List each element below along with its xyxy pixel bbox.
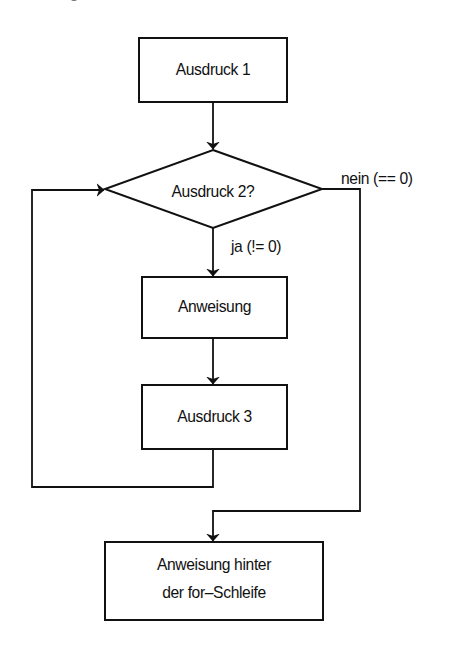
- node-after-box: [105, 542, 323, 620]
- for-loop-flowchart: [0, 0, 455, 651]
- node-after-label-line2: der for–Schleife: [114, 583, 315, 603]
- node-expr3-label: Ausdruck 3: [148, 407, 281, 427]
- node-expr2-label: Ausdruck 2?: [135, 182, 291, 202]
- node-after-label-line1: Anweisung hinter: [114, 555, 315, 575]
- node-expr1-label: Ausdruck 1: [145, 60, 281, 80]
- edge-label-no: nein (== 0): [341, 169, 413, 189]
- node-statement-label: Anweisung: [148, 297, 281, 317]
- edge-label-yes: ja (!= 0): [231, 237, 281, 257]
